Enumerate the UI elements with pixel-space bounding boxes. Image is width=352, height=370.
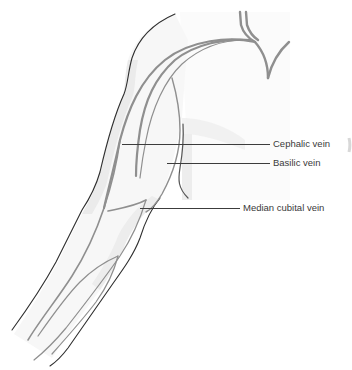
basilic-leader-line xyxy=(167,163,270,164)
median-cubital-leader-line xyxy=(140,208,240,209)
label-median-cubital-vein: Median cubital vein xyxy=(243,203,324,213)
arm-shading xyxy=(14,14,188,358)
arm-vein-illustration xyxy=(0,0,352,370)
label-cephalic-vein: Cephalic vein xyxy=(273,139,330,149)
cephalic-leader-line xyxy=(122,144,270,145)
edge-mark xyxy=(349,138,350,152)
label-basilic-vein: Basilic vein xyxy=(273,158,321,168)
